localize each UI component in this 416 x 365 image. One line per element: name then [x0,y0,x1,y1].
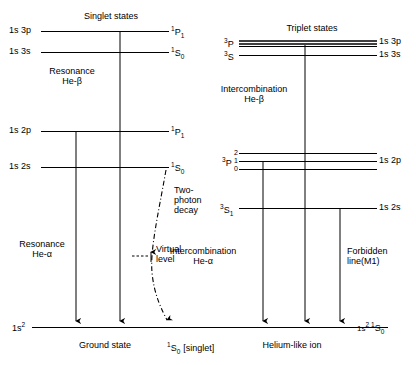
transition-label-line3: decay [174,205,202,215]
level-label-singlet-1s2s: 1s 2s [9,161,31,171]
transition-label-line2: line(M1) [347,256,388,266]
ground-config-sup: 2 [365,321,369,328]
term-symbol-singlet-1s2p: 1P1 [171,124,184,141]
term-letter: P [226,158,232,168]
level-label-triplet-1s3s: 1s 3s [379,49,401,59]
level-line-triplet-1s3p [239,41,377,47]
transition-label-line1: Intercombination [147,246,259,256]
term-symbol-triplet-1s2s: 3S1 [220,202,233,219]
transition-label-intercombination-he-beta: Intercombination He-β [198,84,310,104]
ground-config-text: 1s [12,323,22,333]
transition-label-intercombination-he-alpha: Intercombination He-α [147,246,259,266]
transition-label-line1: Resonance [30,66,114,76]
transition-label-forbidden-line-m1: Forbidden line(M1) [347,246,388,266]
ground-state-config-left: 1s2 [12,320,25,333]
transition-label-line2: He-β [30,76,114,86]
ground-state-config-right: 1s21S0 [357,320,384,337]
ground-singlet-note: [singlet] [183,343,214,353]
term-j: 0 [181,53,185,60]
transition-label-line2: photon [174,195,202,205]
transition-label-line2: He-α [147,256,259,266]
diagram-canvas [0,0,416,365]
term-j: 1 [181,32,185,39]
heading-singlet: Singlet states [56,11,166,21]
level-label-singlet-1s3s: 1s 3s [9,46,31,56]
term-j: 0 [381,328,385,335]
term-symbol-triplet-1s2p: 3P [222,155,232,168]
term-j: 0 [177,348,181,355]
level-label-singlet-1s2p: 1s 2p [9,125,31,135]
term-j: 1 [230,210,234,217]
j-value-0: 0 [234,164,238,174]
ground-state-caption-singlet: Ground state [54,340,156,350]
heading-triplet: Triplet states [252,23,372,33]
transition-label-line2: He-α [5,249,79,259]
energy-level-diagram: Singlet states Triplet states 1s 3p 1s 3… [0,0,416,365]
ground-state-term-singlet: 1S0[singlet] [167,340,214,357]
level-label-singlet-1s3p: 1s 3p [9,25,31,35]
transition-label-line1: Forbidden [347,246,388,256]
term-symbol-triplet-1s3p: 3P [224,36,234,49]
transition-label-line1: Two- [174,185,202,195]
transition-label-resonance-he-alpha: Resonance He-α [5,239,79,259]
transition-label-line1: Intercombination [198,84,310,94]
term-j: 1 [181,132,185,139]
level-label-triplet-1s2p: 1s 2p [379,155,401,165]
term-j: 0 [181,168,185,175]
term-letter: S [228,52,234,62]
term-symbol-singlet-1s2s: 1S0 [171,160,184,177]
ground-state-caption-triplet: Helium-like ion [232,340,352,350]
term-symbol-triplet-1s3s: 3S [224,49,234,62]
transition-label-two-photon-decay: Two- photon decay [174,185,202,215]
level-label-triplet-1s3p: 1s 3p [379,36,401,46]
ground-config-sup: 2 [22,321,26,328]
term-letter: P [228,39,234,49]
term-symbol-singlet-1s3p: 1P1 [171,24,184,41]
transition-label-line2: He-β [198,94,310,104]
transition-label-line1: Resonance [5,239,79,249]
transition-label-resonance-he-beta: Resonance He-β [30,66,114,86]
level-label-triplet-1s2s: 1s 2s [379,202,401,212]
term-symbol-singlet-1s3s: 1S0 [171,45,184,62]
